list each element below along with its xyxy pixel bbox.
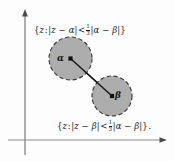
bottom-modulus-right: |α − β| — [113, 121, 143, 131]
real-axis-arrow — [160, 137, 168, 142]
bottom-set-label: {z:|z − β|<13|α − β|}. — [57, 120, 152, 133]
beta-center-dot — [110, 94, 114, 98]
alpha-center-dot — [68, 56, 72, 60]
top-relation: < — [77, 25, 85, 35]
top-fraction-denominator: 3 — [86, 30, 90, 37]
bottom-one-third-fraction: 13 — [109, 120, 113, 133]
top-close-brace: } — [120, 25, 126, 35]
top-modulus-right: |α − β| — [91, 25, 121, 35]
alpha-label: α — [57, 54, 64, 63]
bottom-fraction-numerator: 1 — [109, 120, 113, 126]
top-set-label: {z:|z − α|<13|α − β|} — [34, 24, 126, 37]
bottom-modulus-left: |z − β| — [71, 121, 99, 131]
top-modulus-left: |z − α| — [48, 25, 77, 35]
complex-plane-figure: α β {z:|z − α|<13|α − β|} {z:|z − β|<13|… — [0, 0, 174, 161]
bottom-relation: < — [100, 121, 108, 131]
bottom-trailing-period: . — [148, 121, 152, 131]
imaginary-axis-arrow — [22, 9, 28, 17]
bottom-fraction-denominator: 3 — [109, 126, 113, 133]
beta-label: β — [115, 91, 121, 100]
top-fraction-numerator: 1 — [86, 24, 90, 30]
top-one-third-fraction: 13 — [86, 24, 90, 37]
